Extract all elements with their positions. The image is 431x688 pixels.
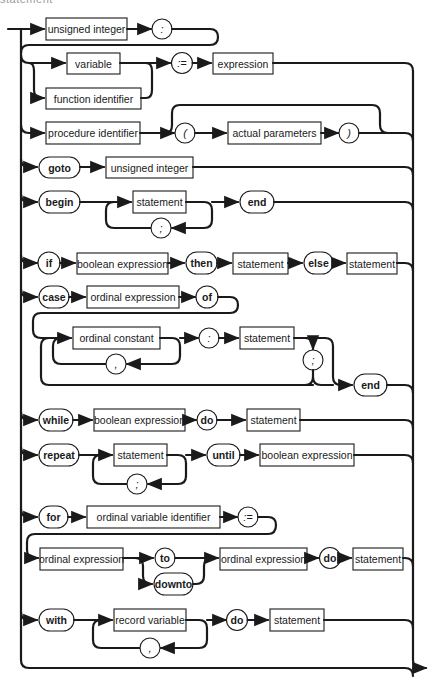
row-repeat: repeat statement ; until boolean express…: [21, 444, 413, 494]
keyword-case-end: end: [361, 379, 380, 391]
keyword-case: case: [42, 291, 66, 303]
symbol-assign: :=: [243, 511, 253, 523]
label-control-variable: ordinal variable identifier: [97, 511, 211, 523]
label-procedure-identifier: procedure identifier: [48, 127, 138, 139]
label-while-condition: boolean expression: [94, 414, 185, 426]
label-case-statement: statement: [244, 332, 290, 344]
symbol-semicolon: ;: [311, 354, 314, 366]
label-while-statement: statement: [250, 414, 296, 426]
symbol-semicolon: ;: [135, 478, 138, 490]
row-label: unsigned integer :: [21, 18, 218, 53]
statement-syntax-diagram: unsigned integer : variable function ide…: [0, 0, 431, 688]
label-variable: variable: [75, 58, 112, 70]
label-ordinal-constant: ordinal constant: [79, 332, 153, 344]
row-if: if boolean expression then statement els…: [21, 252, 413, 274]
keyword-do: do: [324, 552, 337, 564]
keyword-if: if: [46, 257, 53, 269]
row-case: case ordinal expression of ordinal const…: [21, 286, 413, 396]
label-if-condition: boolean expression: [77, 258, 168, 270]
label-compound-statement: statement: [136, 196, 182, 208]
row-compound: begin statement ; end: [21, 191, 413, 238]
keyword-while: while: [42, 414, 69, 426]
label-final-expression: ordinal expression: [221, 553, 306, 565]
keyword-then: then: [190, 257, 212, 269]
label-else-statement: statement: [349, 258, 395, 270]
symbol-colon: :: [207, 332, 210, 344]
keyword-of: of: [202, 291, 212, 303]
keyword-begin: begin: [46, 196, 74, 208]
keyword-until: until: [212, 449, 234, 461]
label-for-statement: statement: [355, 553, 401, 565]
label-then-statement: statement: [237, 258, 283, 270]
keyword-for: for: [47, 511, 61, 523]
label-actual-parameters: actual parameters: [232, 127, 316, 139]
row-goto: goto unsigned integer: [21, 157, 413, 178]
label-case-selector: ordinal expression: [90, 291, 175, 303]
label-goto-target: unsigned integer: [111, 162, 189, 174]
symbol-assign: :=: [177, 57, 187, 69]
label-expression: expression: [218, 58, 269, 70]
label-function-identifier: function identifier: [54, 93, 134, 105]
keyword-to: to: [160, 552, 170, 564]
keyword-goto: goto: [48, 162, 71, 174]
keyword-downto: downto: [155, 578, 192, 590]
label-repeat-condition: boolean expression: [261, 449, 352, 461]
symbol-semicolon: ;: [159, 222, 162, 234]
keyword-end: end: [248, 196, 267, 208]
label-unsigned-integer: unsigned integer: [48, 23, 126, 35]
keyword-do: do: [231, 614, 244, 626]
keyword-else: else: [308, 257, 329, 269]
row-procedure-call: procedure identifier ( actual parameters…: [21, 105, 413, 144]
row-assignment: variable function identifier := expressi…: [21, 53, 413, 110]
label-with-statement: statement: [274, 614, 320, 626]
keyword-do: do: [201, 414, 214, 426]
label-repeat-statement: statement: [117, 449, 163, 461]
symbol-colon: :: [160, 23, 163, 35]
row-with: with record variable , do statement: [21, 609, 413, 658]
row-for: for ordinal variable identifier := ordin…: [21, 506, 413, 595]
row-while: while boolean expression do statement: [21, 409, 413, 431]
label-record-variable: record variable: [115, 614, 185, 626]
symbol-comma: ,: [114, 358, 117, 370]
label-initial-expression: ordinal expression: [39, 553, 124, 565]
symbol-comma: ,: [148, 642, 151, 654]
keyword-with: with: [45, 614, 67, 626]
keyword-repeat: repeat: [43, 449, 75, 461]
